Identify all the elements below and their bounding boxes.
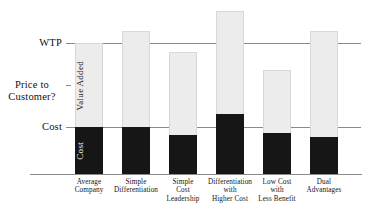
category-4-line1: Differentiation bbox=[208, 178, 252, 186]
category-3-line1: Simple bbox=[173, 178, 194, 186]
bar-3-value-segment bbox=[169, 52, 197, 136]
category-label-2: Simple Differentiation bbox=[107, 178, 165, 195]
bar-3-cost-segment bbox=[169, 135, 197, 174]
bar-6-cost-segment bbox=[310, 137, 338, 174]
bar-5-value-segment bbox=[263, 70, 291, 134]
category-3-line2: Cost bbox=[176, 186, 190, 194]
category-6-line2: Advantages bbox=[307, 186, 342, 194]
bar-1-value-caption: Value Added bbox=[75, 61, 103, 111]
category-1-line2: Company bbox=[75, 186, 104, 194]
price-label-line1: Price to bbox=[15, 79, 49, 90]
price-label-line2: Customer? bbox=[8, 91, 55, 102]
chart-baseline bbox=[30, 174, 362, 175]
category-label-5: Low Cost with Less Benefit bbox=[252, 178, 302, 203]
category-1-line1: Average bbox=[77, 178, 102, 186]
category-2-line1: Simple bbox=[126, 178, 147, 186]
bar-6-value-segment bbox=[310, 31, 338, 138]
category-2-line2: Differentiation bbox=[114, 186, 158, 194]
category-4-line3: Higher Cost bbox=[212, 195, 248, 203]
category-4-line2: with bbox=[223, 186, 236, 194]
category-3-line3: Leadership bbox=[167, 195, 200, 203]
category-label-4: Differentiation with Higher Cost bbox=[200, 178, 260, 203]
axis-label-price-to-customer: Price to Customer? bbox=[0, 79, 64, 102]
category-label-6: Dual Advantages bbox=[299, 178, 349, 195]
category-5-line1: Low Cost bbox=[263, 178, 292, 186]
category-6-line1: Dual bbox=[317, 178, 331, 186]
chart-canvas: WTP Price to Customer? Cost Value Added … bbox=[0, 0, 368, 212]
axis-label-cost: Cost bbox=[0, 121, 62, 133]
axis-label-wtp: WTP bbox=[0, 37, 62, 49]
bar-2-value-segment bbox=[122, 31, 150, 128]
bar-5-cost-segment bbox=[263, 133, 291, 174]
bar-4-cost-segment bbox=[216, 114, 244, 174]
bar-1-value-caption-wrap: Value Added bbox=[75, 43, 103, 128]
category-5-line2: with bbox=[270, 186, 283, 194]
category-5-line3: Less Benefit bbox=[258, 195, 295, 203]
bar-4-value-segment bbox=[216, 11, 244, 115]
bar-2-cost-segment bbox=[122, 127, 150, 174]
bar-1-cost-caption-wrap: Cost bbox=[75, 127, 103, 174]
bar-1-cost-caption: Cost bbox=[75, 142, 103, 160]
price-tick-mark bbox=[66, 85, 71, 86]
